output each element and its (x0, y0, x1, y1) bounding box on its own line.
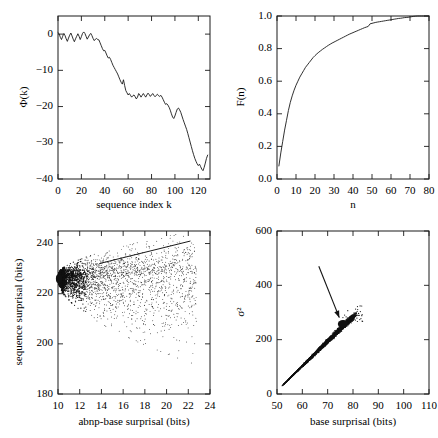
svg-text:0: 0 (267, 387, 273, 399)
svg-text:200: 200 (37, 336, 54, 348)
panel-phi-k-svg: 0204060801001200−10−20−30−40 sequence in… (0, 0, 219, 219)
scatter1-points (56, 234, 197, 364)
phi-k-axes (58, 16, 210, 179)
svg-text:20: 20 (161, 399, 173, 411)
svg-text:0.8: 0.8 (258, 41, 272, 53)
svg-text:50: 50 (367, 184, 379, 196)
panel-phi-k: 0204060801001200−10−20−30−40 sequence in… (0, 0, 219, 219)
svg-text:0.6: 0.6 (258, 74, 272, 86)
svg-text:0.2: 0.2 (258, 139, 272, 151)
F-n-tick-labels: 010203040506070800.00.20.40.60.81.0 (258, 9, 435, 196)
svg-text:0: 0 (55, 184, 61, 196)
F-n-curve (279, 16, 429, 166)
svg-text:−30: −30 (36, 135, 54, 147)
F-n-ylabel: F(n) (234, 87, 247, 106)
svg-text:60: 60 (123, 184, 135, 196)
svg-text:16: 16 (118, 399, 130, 411)
four-panel-figure: 0204060801001200−10−20−30−40 sequence in… (0, 0, 438, 438)
phi-k-curve (58, 32, 208, 171)
svg-text:100: 100 (167, 184, 184, 196)
svg-text:14: 14 (96, 399, 108, 411)
F-n-ticks (277, 16, 429, 179)
scatter2-ylabel: σ² (234, 307, 246, 317)
svg-text:100: 100 (395, 399, 412, 411)
svg-text:220: 220 (37, 286, 54, 298)
plot-frame (277, 16, 429, 179)
svg-text:10: 10 (53, 399, 65, 411)
scatter1-ylabel: sequence surprisal (bits) (12, 258, 25, 365)
svg-text:22: 22 (183, 399, 194, 411)
svg-text:20: 20 (310, 184, 322, 196)
svg-text:60: 60 (386, 184, 398, 196)
phi-k-tick-labels: 0204060801001200−10−20−30−40 (36, 27, 207, 196)
svg-text:120: 120 (190, 184, 207, 196)
panel-F-n: 010203040506070800.00.20.40.60.81.0 n F(… (219, 0, 438, 219)
svg-text:−40: −40 (36, 172, 54, 184)
panel-variance-vs-base-svg: 50607080901001100200400600 base surprisa… (219, 219, 438, 438)
svg-text:50: 50 (272, 399, 284, 411)
svg-text:400: 400 (256, 278, 273, 290)
phi-k-xlabel: sequence index k (96, 198, 172, 210)
panel-F-n-svg: 010203040506070800.00.20.40.60.81.0 n F(… (219, 0, 438, 219)
svg-text:30: 30 (329, 184, 341, 196)
F-n-xlabel: n (350, 198, 356, 210)
svg-text:70: 70 (405, 184, 417, 196)
svg-text:40: 40 (99, 184, 111, 196)
svg-text:1.0: 1.0 (258, 9, 272, 21)
svg-text:180: 180 (37, 387, 54, 399)
scatter1-tick-labels: 1012141618202224180200220240 (37, 236, 217, 410)
panel-variance-vs-base: 50607080901001100200400600 base surprisa… (219, 219, 438, 438)
svg-text:−10: −10 (36, 63, 54, 75)
scatter1-xlabel: abnp-base surprisal (bits) (78, 415, 190, 428)
svg-text:90: 90 (373, 399, 385, 411)
svg-text:240: 240 (37, 236, 54, 248)
svg-text:70: 70 (322, 399, 334, 411)
svg-text:200: 200 (256, 332, 273, 344)
svg-text:60: 60 (297, 399, 309, 411)
svg-text:20: 20 (76, 184, 88, 196)
svg-text:0.0: 0.0 (258, 172, 272, 184)
svg-text:80: 80 (146, 184, 158, 196)
scatter2-annotation-arrow (319, 266, 340, 317)
svg-text:40: 40 (348, 184, 360, 196)
svg-text:80: 80 (348, 399, 360, 411)
svg-text:110: 110 (421, 399, 438, 411)
panel-sequence-vs-abnp-svg: 1012141618202224180200220240 abnp-base s… (0, 219, 219, 438)
phi-k-ylabel: Φ(k) (17, 86, 30, 107)
scatter2-points (282, 305, 364, 386)
svg-text:0: 0 (48, 27, 54, 39)
svg-text:0: 0 (274, 184, 280, 196)
svg-text:10: 10 (291, 184, 303, 196)
svg-text:24: 24 (205, 399, 217, 411)
svg-text:80: 80 (424, 184, 436, 196)
svg-text:−20: −20 (36, 99, 54, 111)
svg-text:0.4: 0.4 (258, 106, 272, 118)
svg-text:18: 18 (139, 399, 151, 411)
svg-text:600: 600 (256, 224, 273, 236)
phi-k-ticks (58, 16, 210, 179)
svg-text:12: 12 (74, 399, 85, 411)
panel-sequence-vs-abnp: 1012141618202224180200220240 abnp-base s… (0, 219, 219, 438)
plot-frame (58, 16, 210, 179)
scatter2-xlabel: base surprisal (bits) (310, 415, 396, 428)
